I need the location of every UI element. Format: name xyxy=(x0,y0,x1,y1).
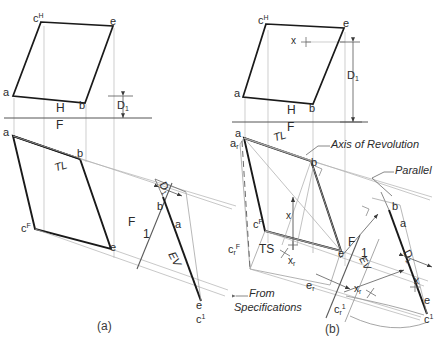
panel-a-label-e-aux: e xyxy=(196,300,202,311)
panel-a-edge-view xyxy=(155,179,201,301)
panel-b-fold-label-h: H xyxy=(287,104,296,116)
caption-b: (b) xyxy=(325,323,340,335)
panel-b-top-dimension-label: D1 xyxy=(347,70,359,82)
panel-b-aux-xr-marker xyxy=(366,288,376,298)
panel-a-fold-label-f1-lower: 1 xyxy=(143,228,150,240)
panel-b-aux-x-label: x xyxy=(414,276,419,286)
panel-a-label-a-aux: a xyxy=(175,219,181,230)
panel-b-aux-xr-label: xr xyxy=(354,284,361,295)
panel-a-fold-label-h: H xyxy=(56,102,65,114)
panel-a-label-a-top: a xyxy=(3,87,9,98)
panel-a-label-e-front: e xyxy=(110,242,116,253)
panel-b-label-crF: crF xyxy=(228,243,240,256)
panel-a-label-a-front: a xyxy=(3,127,9,138)
panel-b-top-x-label: x xyxy=(291,36,296,46)
panel-a-label-cH: cH xyxy=(33,12,44,24)
panel-a-label-e-top: e xyxy=(110,16,116,27)
panel-b-height-dimension xyxy=(340,42,362,122)
panel-b-label-cH: cH xyxy=(258,14,269,26)
panel-b-label-ar-front: ar xyxy=(230,138,238,150)
panel-b-front-x-label: x xyxy=(286,211,291,221)
panel-b-front-x-marker xyxy=(288,240,298,250)
panel-b-label-cF: cF xyxy=(253,218,263,230)
annotation-from: From xyxy=(249,288,275,299)
panel-b-label-e-aux: e xyxy=(424,295,430,306)
panel-a-transfer-lines xyxy=(13,136,236,296)
panel-b-label-b-top: b xyxy=(309,103,315,114)
panel-b-label-cr1-aux: cr1 xyxy=(334,303,346,316)
panel-b-label-e-top: e xyxy=(343,18,349,29)
panel-b-label-a-aux: a xyxy=(400,218,406,229)
panel-a-label-b-front: b xyxy=(77,148,83,159)
panel-a-group xyxy=(4,22,236,301)
annotation-specifications: Specifications xyxy=(234,302,302,313)
annotation-parallel: Parallel xyxy=(395,165,432,176)
panel-b-revolution-arcs xyxy=(346,296,428,328)
panel-a-fold-label-f1-upper: F xyxy=(128,216,135,228)
panel-b-label-a-top: a xyxy=(234,88,240,99)
panel-b-label-b-front: b xyxy=(311,157,317,168)
panel-a-label-c1-aux: c1 xyxy=(196,313,205,325)
panel-b-fold-label-f: F xyxy=(287,121,294,133)
panel-a-label-b-top: b xyxy=(79,100,85,111)
panel-b-projectors xyxy=(245,30,345,266)
panel-b-label-e-front: e xyxy=(338,248,344,259)
panel-a-fold-label-f: F xyxy=(56,119,63,131)
panel-a-top-view-plane xyxy=(13,22,113,103)
panel-b-label-b-aux: b xyxy=(392,201,398,212)
panel-b-fold-label-f1-upper: F xyxy=(348,236,355,248)
panel-b-top-x-marker xyxy=(301,37,311,47)
panel-a-label-cF: cF xyxy=(21,222,31,234)
panel-b-front-xr-label: xr xyxy=(288,256,295,267)
panel-a-label-b-aux: b xyxy=(157,201,163,212)
panel-b-label-er-front: er xyxy=(306,280,314,292)
panel-a-dimension-D: D1 xyxy=(117,100,129,112)
caption-a: (a) xyxy=(97,320,112,332)
panel-b-right-angle-mark-2 xyxy=(362,206,369,216)
panel-b-label-c1-aux: c1 xyxy=(424,313,433,325)
drawing-canvas xyxy=(0,0,444,343)
panel-b-true-size-label: TS xyxy=(259,243,274,255)
annotation-axis-of-revolution: Axis of Revolution xyxy=(331,139,419,150)
figure-sheet: cH e a b H F D1 a b cF e TL F 1 b a e c1… xyxy=(0,0,444,343)
